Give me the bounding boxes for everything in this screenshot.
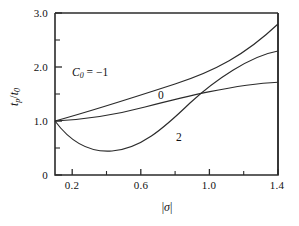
figure-container: 3.0 2.0 1.0 0 0.2 0.6 1.0 1.4 |σ| tp/t0 … xyxy=(0,0,299,226)
curve-label-c-symbol: C xyxy=(72,66,80,78)
axes-frame xyxy=(55,13,278,175)
curve-c0-zero xyxy=(55,82,278,121)
curve-label-c0-minus-1: C0 = −1 xyxy=(72,66,108,80)
y-axis-title-denom-sub: 0 xyxy=(13,88,22,92)
x-tick-label-3: 1.4 xyxy=(270,179,284,191)
data-curves xyxy=(55,24,278,151)
y-tick-label-1: 1.0 xyxy=(24,115,48,127)
y-tick-label-0: 0 xyxy=(24,169,48,181)
y-axis-title-slash: / xyxy=(7,95,21,98)
y-tick-label-3: 3.0 xyxy=(24,7,48,19)
y-tick-label-2: 2.0 xyxy=(24,61,48,73)
curve-label-c0-two: 2 xyxy=(176,131,182,143)
curve-label-c0-zero: 0 xyxy=(158,89,164,101)
x-tick-label-2: 1.0 xyxy=(202,179,216,191)
plot-svg xyxy=(0,0,299,226)
y-axis-title-denom: t xyxy=(7,92,21,95)
curve-label-c-equals-value: = −1 xyxy=(84,66,108,78)
x-axis-title: |σ| xyxy=(162,200,173,215)
y-axis-title: tp/t0 xyxy=(7,88,22,106)
y-axis-title-numer: t xyxy=(7,103,21,106)
x-tick-label-0: 0.2 xyxy=(65,179,79,191)
y-axis-title-numer-sub: p xyxy=(13,99,22,103)
x-axis-title-bar-right: | xyxy=(170,200,172,214)
x-tick-label-1: 0.6 xyxy=(134,179,148,191)
